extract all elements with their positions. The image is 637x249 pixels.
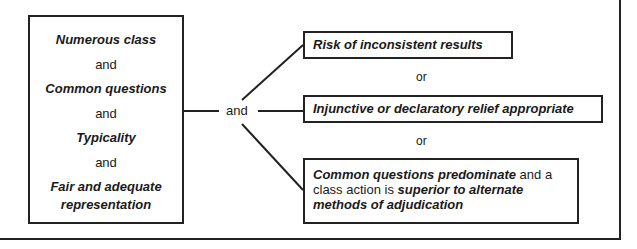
or-label: or bbox=[416, 70, 427, 84]
req-fair-adequate: Fair and adequate bbox=[30, 179, 182, 194]
text-methods: methods of adjudication bbox=[313, 197, 463, 212]
or-label: or bbox=[416, 134, 427, 148]
requirements-box: Numerous class and Common questions and … bbox=[28, 15, 184, 224]
req-common-questions: Common questions bbox=[30, 81, 182, 96]
req-representation: representation bbox=[30, 197, 182, 212]
option-predominance-superiority: Common questions predominate and a class… bbox=[303, 158, 579, 224]
option-injunctive-relief: Injunctive or declaratory relief appropr… bbox=[303, 95, 603, 123]
and-connector-label: and bbox=[226, 103, 248, 118]
text-and-a: and a bbox=[516, 167, 552, 182]
and-connector: and bbox=[30, 155, 182, 170]
text-superior: superior to alternate bbox=[398, 182, 524, 197]
text-class-action: class action is bbox=[313, 182, 398, 197]
text-predominate: Common questions predominate bbox=[313, 167, 516, 182]
req-typicality: Typicality bbox=[30, 130, 182, 145]
req-numerous-class: Numerous class bbox=[30, 32, 182, 47]
option-inconsistent-results: Risk of inconsistent results bbox=[303, 31, 513, 59]
and-connector: and bbox=[30, 106, 182, 121]
and-connector: and bbox=[30, 57, 182, 72]
